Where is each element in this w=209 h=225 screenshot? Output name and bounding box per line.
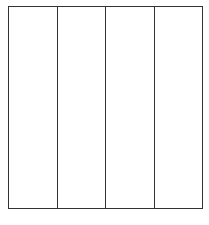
grid-column-3 (106, 7, 155, 208)
grid-column-4 (155, 7, 203, 208)
four-column-grid (8, 6, 203, 209)
grid-column-1 (9, 7, 58, 208)
grid-column-2 (58, 7, 107, 208)
